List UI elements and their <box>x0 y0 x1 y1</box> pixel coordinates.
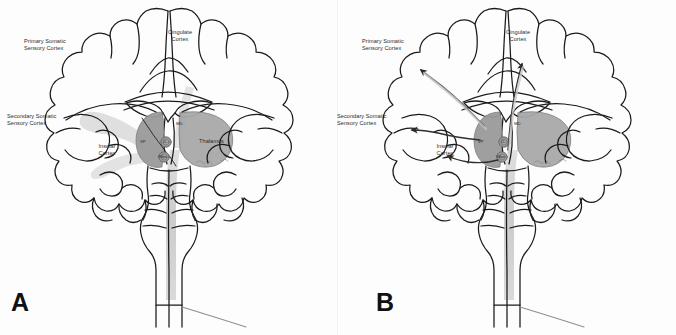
nucleus-label-cl: CL <box>501 140 505 144</box>
nucleus-label-vp: VP <box>140 139 146 144</box>
nucleus-label-vmpo: VMpo <box>158 155 166 159</box>
label-insular-cortex: Insular Cortex <box>90 143 124 157</box>
panel-a: Primary Somatic Sensory Cortex Cingulate… <box>0 0 338 335</box>
nucleus-label-vp: VP <box>478 139 484 144</box>
panel-plate-label-a: A <box>11 288 29 317</box>
nucleus-label-md: MD <box>514 121 521 126</box>
label-secondary-somatic-sensory-cortex: Secondary Somatic Sensory Cortex <box>7 113 56 127</box>
label-secondary-somatic-sensory-cortex: Secondary Somatic Sensory Cortex <box>337 113 386 127</box>
label-cingulate-cortex: Cingulate Cortex <box>156 29 204 43</box>
figure-container: Primary Somatic Sensory Cortex Cingulate… <box>0 0 676 335</box>
label-thalamus: Thalamus <box>199 138 224 145</box>
nucleus-label-vmpo: VMpo <box>496 155 504 159</box>
nucleus-label-md: MD <box>176 121 183 126</box>
panel-plate-label-b: B <box>376 288 394 317</box>
label-cingulate-cortex: Cingulate Cortex <box>494 29 542 43</box>
label-primary-somatic-sensory-cortex: Primary Somatic Sensory Cortex <box>24 38 66 52</box>
nucleus-label-cl: CL <box>163 140 167 144</box>
panel-b: Primary Somatic Sensory Cortex Cingulate… <box>338 0 676 335</box>
label-insular-cortex: Insular Cortex <box>428 143 462 157</box>
label-primary-somatic-sensory-cortex: Primary Somatic Sensory Cortex <box>362 38 404 52</box>
